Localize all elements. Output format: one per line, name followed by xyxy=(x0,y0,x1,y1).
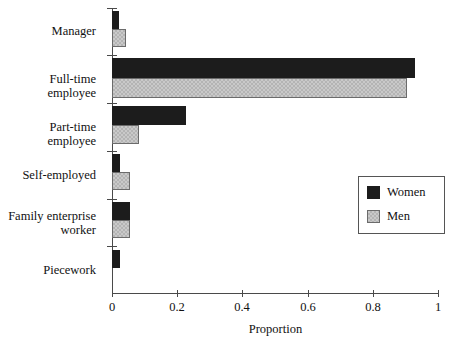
x-tick-label-1: 0.2 xyxy=(169,300,185,315)
legend-swatch-men-icon xyxy=(367,210,380,223)
y-tick-5 xyxy=(107,246,117,247)
y-axis-label-family-enterprise: Family enterprise worker xyxy=(8,209,96,237)
x-tick-label-2: 0.4 xyxy=(234,300,250,315)
y-tick-3 xyxy=(107,151,117,152)
x-axis-title: Proportion xyxy=(112,322,439,337)
bar-men-part-time xyxy=(112,125,139,144)
y-axis-label-self-employed: Self-employed xyxy=(22,168,96,182)
x-tick-4 xyxy=(373,290,374,297)
y-axis-label-full-time: Full-time employee xyxy=(0,72,96,100)
x-tick-0 xyxy=(112,290,113,297)
x-tick-5 xyxy=(438,290,439,297)
legend-label-men: Men xyxy=(387,209,410,224)
y-tick-0 xyxy=(107,8,117,9)
bar-men-manager xyxy=(112,29,126,47)
chart-figure: 0 0.2 0.4 0.6 0.8 1 Manager Full-time em… xyxy=(0,0,452,352)
y-tick-1 xyxy=(107,55,117,56)
bar-men-full-time xyxy=(112,78,407,98)
y-tick-2 xyxy=(107,103,117,104)
x-axis-line xyxy=(112,293,439,294)
plot-area: 0 0.2 0.4 0.6 0.8 1 Manager Full-time em… xyxy=(0,0,452,352)
x-tick-2 xyxy=(242,290,243,297)
y-axis-label-part-time: Part-time employee xyxy=(0,120,96,148)
bar-women-full-time xyxy=(112,58,415,78)
legend-item-men: Men xyxy=(367,208,410,224)
legend-item-women: Women xyxy=(367,184,426,200)
y-axis-label-piecework: Piecework xyxy=(43,263,96,277)
bar-women-manager xyxy=(112,11,119,29)
bar-men-self-employed xyxy=(112,172,130,190)
y-tick-4 xyxy=(107,199,117,200)
x-tick-label-5: 1 xyxy=(435,300,441,315)
x-tick-label-4: 0.8 xyxy=(365,300,381,315)
legend-label-women: Women xyxy=(387,185,426,200)
bar-men-family-enterprise xyxy=(112,220,130,238)
bar-women-piecework xyxy=(112,250,120,268)
x-tick-label-0: 0 xyxy=(109,300,115,315)
bar-women-family-enterprise xyxy=(112,202,130,220)
x-tick-3 xyxy=(308,290,309,297)
y-axis-label-manager: Manager xyxy=(52,24,96,38)
legend: Women Men xyxy=(358,176,445,234)
x-tick-1 xyxy=(177,290,178,297)
bar-women-part-time xyxy=(112,106,186,125)
bar-women-self-employed xyxy=(112,154,120,172)
legend-swatch-women-icon xyxy=(367,186,380,199)
x-tick-label-3: 0.6 xyxy=(300,300,316,315)
